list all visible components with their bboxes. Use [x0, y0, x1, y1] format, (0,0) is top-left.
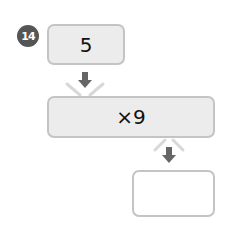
- arrow-down-icon: [78, 72, 92, 88]
- operation-box: ×9: [47, 96, 215, 138]
- start-value: 5: [80, 33, 93, 57]
- start-value-box: 5: [47, 24, 125, 65]
- operation-label: ×9: [116, 105, 145, 129]
- answer-box[interactable]: [132, 170, 215, 217]
- arrow-down-icon: [162, 147, 176, 163]
